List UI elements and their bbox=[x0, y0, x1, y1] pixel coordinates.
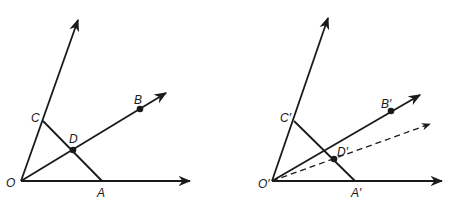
label-a: A bbox=[96, 186, 105, 200]
label-b-prime: B′ bbox=[381, 97, 392, 111]
angle-bisector-diagram: O A C D B O′ A′ C′ D′ B′ bbox=[0, 0, 452, 204]
label-c: C bbox=[31, 111, 40, 125]
ray-ob bbox=[21, 93, 166, 181]
point-d bbox=[70, 147, 77, 154]
ray-ob-prime bbox=[272, 95, 420, 181]
figure-copy: O′ A′ C′ D′ B′ bbox=[258, 18, 442, 200]
ray-od-prime-dashed bbox=[272, 124, 430, 181]
label-o-prime: O′ bbox=[258, 177, 270, 191]
figure-original: O A C D B bbox=[6, 20, 190, 200]
label-c-prime: C′ bbox=[280, 111, 292, 125]
label-d: D bbox=[69, 132, 78, 146]
label-b: B bbox=[134, 93, 142, 107]
label-o: O bbox=[6, 176, 15, 190]
label-a-prime: A′ bbox=[350, 186, 362, 200]
ray-oc-prime bbox=[272, 18, 328, 181]
label-d-prime: D′ bbox=[337, 145, 349, 159]
ray-oc bbox=[21, 20, 78, 181]
